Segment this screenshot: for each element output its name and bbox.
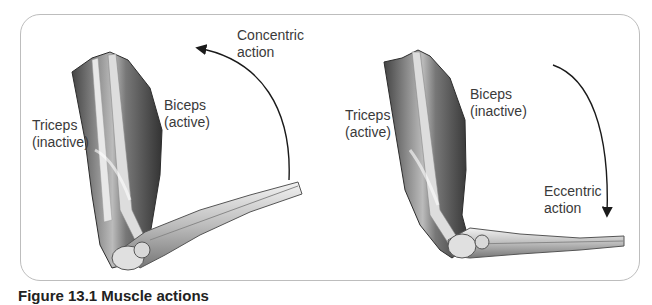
right-arm (384, 50, 624, 258)
concentric-action-label: Concentric action (237, 27, 304, 61)
concentric-arrow-icon (198, 48, 289, 180)
left-biceps-label: Biceps (active) (164, 97, 210, 131)
right-biceps-label: Biceps (inactive) (470, 86, 527, 120)
eccentric-action-label: Eccentric action (544, 183, 602, 217)
right-triceps-label: Triceps (active) (345, 107, 391, 141)
figure-caption: Figure 13.1 Muscle actions (18, 287, 209, 305)
left-arm (72, 48, 302, 270)
left-triceps-label: Triceps (inactive) (32, 117, 89, 151)
